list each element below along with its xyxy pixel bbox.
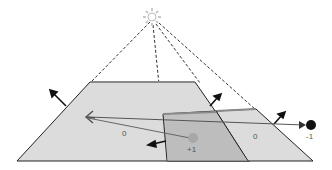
right-region-label: 0	[253, 133, 257, 141]
outer-point	[306, 120, 316, 130]
left-region-label: 0	[122, 130, 126, 138]
inner-point	[188, 133, 198, 143]
diagram-canvas	[0, 0, 332, 170]
inner-point-label: +1	[187, 146, 196, 154]
sun-icon	[143, 8, 161, 26]
outer-point-label: -1	[306, 133, 313, 141]
diagram: 0 0 +1 -1	[0, 0, 332, 170]
